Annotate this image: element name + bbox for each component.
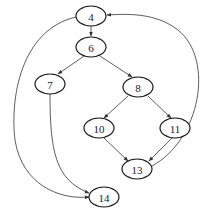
node-11: 11 [160, 118, 190, 138]
node-label: 4 [88, 11, 94, 23]
node-label: 13 [132, 164, 144, 176]
nodes-layer: 467810111314 [35, 6, 190, 207]
edge-6-to-8 [100, 56, 132, 77]
node-14: 14 [89, 187, 119, 207]
node-6: 6 [76, 37, 106, 57]
edge-8-to-10 [104, 96, 128, 118]
node-10: 10 [84, 118, 114, 138]
edge-10-to-13 [104, 138, 128, 161]
edge-8-to-11 [148, 96, 171, 118]
node-label: 10 [94, 123, 106, 135]
node-label: 11 [170, 123, 181, 135]
node-13: 13 [122, 159, 152, 179]
edge-11-to-13 [149, 138, 172, 161]
node-label: 8 [135, 82, 141, 94]
node-label: 6 [88, 42, 94, 54]
edges-layer [14, 14, 199, 197]
node-label: 14 [99, 192, 111, 204]
control-flow-graph: 467810111314 [0, 0, 208, 216]
edge-6-to-7 [58, 56, 84, 74]
node-8: 8 [123, 77, 153, 97]
node-7: 7 [35, 74, 65, 94]
node-4: 4 [76, 6, 106, 26]
node-label: 7 [47, 79, 53, 91]
edge-7-to-14 [50, 94, 89, 193]
